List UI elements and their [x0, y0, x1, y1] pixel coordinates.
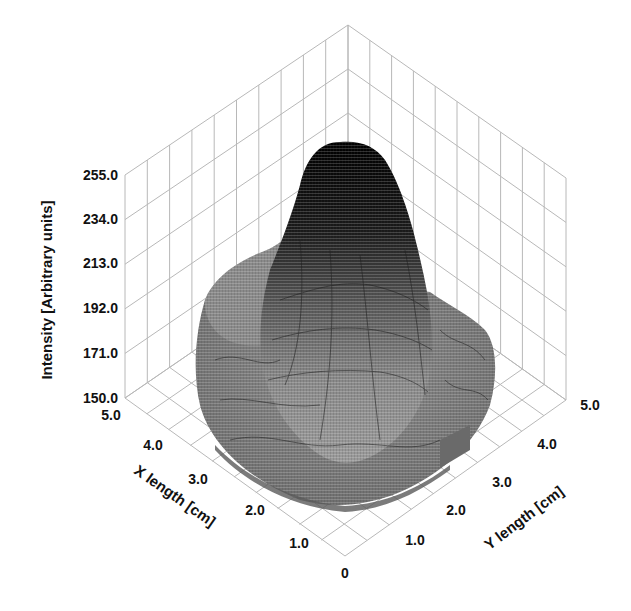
origin-label: 0: [341, 565, 349, 581]
z-tick-171: 171.0: [83, 345, 118, 361]
z-tick-213: 213.0: [83, 255, 118, 271]
z-tick-234: 234.0: [83, 211, 118, 227]
z-axis-ticks: 150.0 171.0 192.0 213.0 234.0 255.0: [83, 167, 118, 406]
z-tick-150: 150.0: [83, 390, 118, 406]
x-tick-3: 3.0: [188, 471, 208, 487]
z-tick-192: 192.0: [83, 300, 118, 316]
y-tick-3: 3.0: [492, 474, 512, 490]
y-axis-title: Y length [cm]: [481, 482, 567, 553]
intensity-surface: [196, 142, 495, 512]
z-tick-255: 255.0: [83, 167, 118, 183]
x-tick-5: 5.0: [101, 407, 121, 423]
y-tick-1: 1.0: [405, 532, 425, 548]
x-tick-1: 1.0: [289, 535, 309, 551]
x-tick-4: 4.0: [143, 437, 163, 453]
y-tick-4: 4.0: [537, 436, 557, 452]
surface-plot: 150.0 171.0 192.0 213.0 234.0 255.0 Inte…: [0, 0, 631, 611]
y-tick-5: 5.0: [580, 397, 600, 413]
y-tick-2: 2.0: [446, 502, 466, 518]
z-axis-title: Intensity [Arbitrary units]: [38, 200, 55, 379]
x-tick-2: 2.0: [245, 502, 265, 518]
